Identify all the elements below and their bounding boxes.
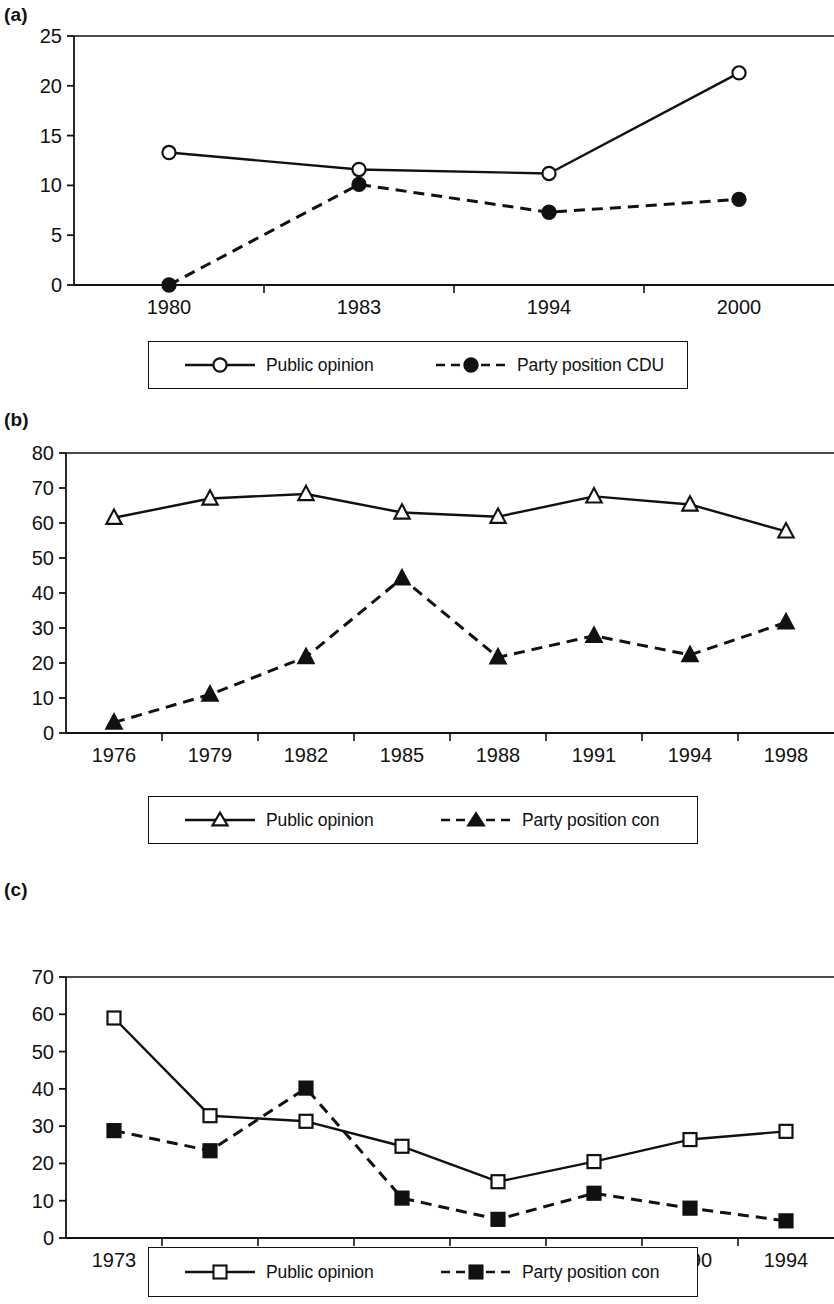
panel-b-legend: Public opinion Party position con [148,796,698,844]
data-point-filled-square [108,1124,121,1137]
data-point-open-circle [162,146,175,159]
data-point-open-circle [732,66,745,79]
panel-a-plot: 05101520251980198319942000 [0,0,834,320]
panel-a-legend: Public opinion Party position CDU [148,341,688,389]
data-point-filled-square [684,1202,697,1215]
data-point-open-square [492,1175,505,1188]
y-axis-tick-label: 30 [32,617,54,639]
legend-entry-public-opinion[interactable]: Public opinion [183,1262,374,1283]
y-axis-tick-label: 20 [32,652,54,674]
legend-entry-party-position[interactable]: Party position con [439,810,659,831]
y-axis-tick-label: 30 [32,1115,54,1137]
series-party-position [108,1082,793,1228]
x-axis-tick-label: 2000 [717,296,762,318]
series-line [169,184,739,285]
data-point-open-square [588,1155,601,1168]
x-axis-tick-label: 1994 [764,1249,809,1271]
data-point-filled-circle [732,193,745,206]
y-axis-tick-label: 10 [40,174,62,196]
legend-entry-party-position[interactable]: Party position CDU [434,355,664,376]
x-axis-tick-label: 1985 [380,744,425,766]
x-axis-tick-label: 1982 [284,744,329,766]
data-point-filled-triangle [202,686,217,700]
panel-b: (b) 010203040506070801976197919821985198… [0,400,834,855]
x-axis-tick-label: 1988 [476,744,521,766]
legend-entry-public-opinion[interactable]: Public opinion [183,810,374,831]
data-point-open-square [204,1109,217,1122]
y-axis-tick-label: 20 [40,75,62,97]
data-point-open-square [396,1140,409,1153]
data-point-filled-square [780,1214,793,1227]
data-point-open-triangle [298,486,313,500]
legend-entry-public-opinion[interactable]: Public opinion [183,355,374,376]
y-axis-tick-label: 80 [32,442,54,464]
x-axis-tick-label: 1973 [92,1249,137,1271]
legend-label-party-position: Party position con [522,1262,659,1283]
y-axis-tick-label: 5 [51,224,62,246]
data-point-open-square [684,1133,697,1146]
data-point-open-square [108,1012,121,1025]
data-point-filled-square [204,1144,217,1157]
y-axis-tick-label: 70 [32,966,54,988]
y-axis-tick-label: 10 [32,1190,54,1212]
legend-label-public-opinion: Public opinion [266,810,374,831]
panel-c-plot: 0102030405060701973197919811984198719881… [0,900,834,1280]
data-point-filled-triangle [586,627,601,641]
panel-a: (a) 05101520251980198319942000 Public op… [0,0,834,400]
panel-b-plot: 0102030405060708019761979198219851988199… [0,408,834,788]
data-point-filled-circle [542,206,555,219]
series-line [169,73,739,174]
data-point-filled-triangle [394,570,409,584]
legend-sample-filled-square [439,1262,513,1282]
panel-c-legend: Public opinion Party position con [148,1247,698,1297]
series-party-position [162,178,745,292]
y-axis-tick-label: 0 [43,722,54,744]
series-party-position [106,570,793,729]
y-axis-tick-label: 60 [32,512,54,534]
y-axis-tick-label: 50 [32,1041,54,1063]
series-public-opinion [162,66,745,180]
legend-sample-filled-triangle [439,810,513,830]
series-public-opinion [108,1012,793,1189]
legend-entry-party-position[interactable]: Party position con [439,1262,659,1283]
legend-label-public-opinion: Public opinion [266,1262,374,1283]
x-axis-tick-label: 1994 [668,744,713,766]
y-axis-tick-label: 40 [32,1078,54,1100]
legend-label-party-position: Party position CDU [517,355,664,376]
y-axis-tick-label: 50 [32,547,54,569]
data-point-filled-square [396,1192,409,1205]
x-axis-tick-label: 1998 [764,744,809,766]
y-axis-tick-label: 0 [51,274,62,296]
x-axis-tick-label: 1976 [92,744,137,766]
y-axis-tick-label: 20 [32,1152,54,1174]
y-axis-tick-label: 25 [40,25,62,47]
data-point-filled-circle [352,178,365,191]
data-point-filled-triangle [778,614,793,628]
panel-c: (c) 010203040506070197319791981198419871… [0,855,834,1304]
y-axis-tick-label: 10 [32,687,54,709]
data-point-open-square [780,1125,793,1138]
x-axis-tick-label: 1991 [572,744,617,766]
legend-label-public-opinion: Public opinion [266,355,374,376]
data-point-open-circle [352,163,365,176]
x-axis-tick-label: 1980 [147,296,192,318]
data-point-filled-triangle [298,649,313,663]
legend-sample-open-circle [183,355,257,375]
panel-c-label: (c) [4,879,28,901]
y-axis-tick-label: 60 [32,1003,54,1025]
y-axis-tick-label: 15 [40,125,62,147]
data-point-open-square [300,1115,313,1128]
x-axis-tick-label: 1994 [527,296,572,318]
data-point-open-triangle [586,488,601,502]
data-point-filled-circle [162,278,175,291]
legend-sample-filled-circle [434,355,508,375]
y-axis-tick-label: 70 [32,477,54,499]
data-point-filled-square [300,1082,313,1095]
y-axis-tick-label: 0 [43,1227,54,1249]
legend-sample-open-triangle [183,810,257,830]
x-axis-tick-label: 1979 [188,744,233,766]
x-axis-tick-label: 1983 [337,296,382,318]
data-point-filled-square [588,1187,601,1200]
data-point-filled-square [492,1213,505,1226]
legend-label-party-position: Party position con [522,810,659,831]
